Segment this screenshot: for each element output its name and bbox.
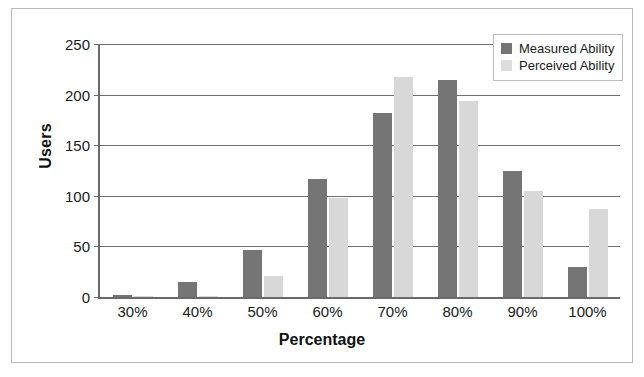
bar-measured (113, 295, 132, 297)
bar-perceived (589, 209, 608, 297)
y-tick-label: 250 (40, 36, 90, 53)
bar-group (503, 44, 543, 297)
chart-figure: Users 050100150200250 30%40%50%60%70%80%… (11, 8, 633, 363)
bar-measured (243, 250, 262, 297)
bar-group (568, 44, 608, 297)
y-tick-label: 0 (40, 289, 90, 306)
bar-measured (178, 282, 197, 297)
y-axis-tick-labels: 050100150200250 (40, 36, 90, 290)
bar-group (178, 44, 218, 297)
bar-group (308, 44, 348, 297)
y-tick-label: 200 (40, 86, 90, 103)
x-axis-title: Percentage (12, 331, 632, 349)
legend-label: Measured Ability (519, 41, 614, 56)
bar-measured (373, 113, 392, 297)
x-tick-label: 100% (548, 303, 628, 320)
bar-perceived (394, 77, 413, 297)
bar-perceived (524, 191, 543, 297)
bar-perceived (329, 198, 348, 297)
chart-legend: Measured AbilityPerceived Ability (493, 34, 623, 81)
bar-perceived (199, 296, 218, 297)
legend-label: Perceived Ability (519, 58, 614, 73)
bar-perceived (134, 296, 153, 297)
perceived-swatch (501, 60, 512, 71)
y-tick-mark (94, 297, 100, 298)
y-tick-label: 150 (40, 137, 90, 154)
y-tick-label: 100 (40, 187, 90, 204)
legend-item: Perceived Ability (501, 57, 614, 74)
bar-measured (503, 171, 522, 298)
y-tick-label: 50 (40, 238, 90, 255)
bar-groups (100, 44, 620, 297)
bar-group (373, 44, 413, 297)
bar-group (438, 44, 478, 297)
measured-swatch (501, 43, 512, 54)
plot-area (98, 44, 620, 299)
x-axis-tick-labels: 30%40%50%60%70%80%90%100% (100, 303, 620, 327)
bar-measured (568, 267, 587, 297)
bar-measured (438, 80, 457, 297)
bar-perceived (264, 276, 283, 297)
legend-item: Measured Ability (501, 40, 614, 57)
bar-group (243, 44, 283, 297)
bar-perceived (459, 101, 478, 297)
bar-measured (308, 179, 327, 297)
bar-group (113, 44, 153, 297)
